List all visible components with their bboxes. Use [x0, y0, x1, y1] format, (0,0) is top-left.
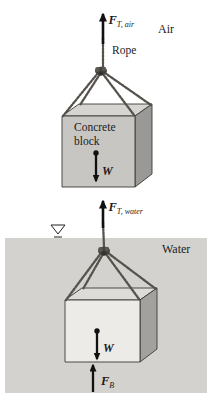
- weight-origin-dot-air: [93, 150, 98, 155]
- air-block-side-face: [135, 104, 152, 187]
- water-block-side-face: [140, 288, 157, 362]
- rope-strand-back-left: [80, 74, 100, 105]
- weight-label-air: W: [102, 164, 114, 178]
- physics-buoyancy-figure: FT, air Air Rope Concrete block W: [0, 0, 213, 409]
- rope-strand-back-right: [105, 73, 151, 105]
- tension-label-air: FT, air: [108, 13, 135, 29]
- figure-canvas: FT, air Air Rope Concrete block W: [0, 0, 213, 409]
- water-surface-icon: [51, 225, 65, 237]
- rope-label: Rope: [112, 44, 136, 57]
- weight-origin-dot-water: [94, 328, 99, 333]
- water-scene: FT, water Water W FB: [5, 200, 207, 393]
- air-medium-label: Air: [158, 22, 174, 36]
- block-caption-line1: Concrete: [74, 121, 116, 133]
- tension-label-water: FT, water: [108, 200, 144, 216]
- weight-label-water: W: [103, 341, 115, 355]
- water-medium-label: Water: [162, 242, 190, 256]
- air-scene: FT, air Air Rope Concrete block W: [62, 13, 174, 187]
- block-caption-line2: block: [74, 135, 100, 147]
